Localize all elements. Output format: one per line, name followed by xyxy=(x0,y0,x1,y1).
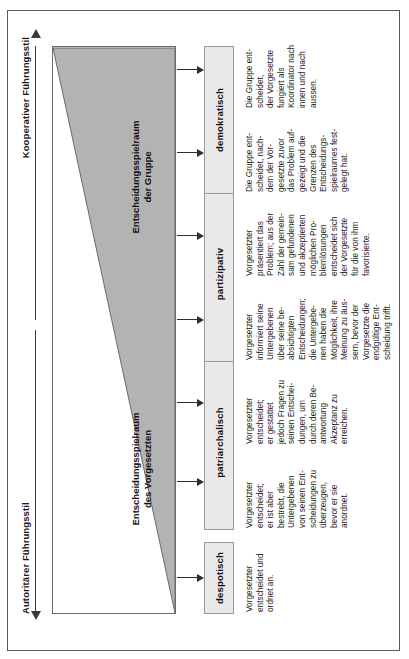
connector-line-7 xyxy=(177,69,199,70)
style-box-partizipativ[interactable]: partizipativ xyxy=(204,186,234,362)
description-demokratisch: Die Gruppe ent- scheidet, nach- dem der … xyxy=(244,114,350,192)
connector-arrow-3-icon xyxy=(197,399,204,407)
right-arrow-icon xyxy=(31,29,41,38)
cooperative-axis-line xyxy=(35,46,36,320)
connector-arrow-2-icon xyxy=(197,478,204,486)
style-label-partizipativ: partizipativ xyxy=(214,248,225,301)
diagram-frame: Autoritärer Führungsstil Kooperativer Fü… xyxy=(7,10,400,651)
connector-arrow-5-icon xyxy=(197,232,204,240)
description-partizipativ-secondary: Vorgesetzter präsentiert das Problem; au… xyxy=(244,196,371,276)
style-box-demokratisch[interactable]: demokratisch xyxy=(204,46,234,194)
connector-line-1 xyxy=(177,577,199,578)
connector-line-2 xyxy=(177,481,199,482)
description-despotisch: Vorgesetzter entscheidet und ordnet an. xyxy=(244,538,276,612)
description-demokratisch-secondary: Die Gruppe ent- scheidet, der Vorgesetzt… xyxy=(244,30,318,108)
connector-line-5 xyxy=(177,235,199,236)
connector-line-3 xyxy=(177,402,199,403)
wedge-label-superior: Entscheidungsspielraum des Vorgesetzten xyxy=(130,384,154,554)
connector-arrow-4-icon xyxy=(197,316,204,324)
style-label-patriarchalisch: patriarchalisch xyxy=(214,407,225,478)
left-arrow-icon xyxy=(31,611,41,620)
connector-line-4 xyxy=(177,319,199,320)
connector-arrow-6-icon xyxy=(197,149,204,157)
style-box-patriarchalisch[interactable]: patriarchalisch xyxy=(204,355,234,530)
diagram-page: Autoritärer Führungsstil Kooperativer Fü… xyxy=(0,0,409,659)
wedge-label-group: Entscheidungsspielraum der Gruppe xyxy=(130,92,154,262)
connector-arrow-1-icon xyxy=(197,574,204,582)
description-partizipativ: Vorgesetzter informiert seine Untergeben… xyxy=(244,282,392,360)
style-box-despotisch[interactable]: despotisch xyxy=(204,542,234,614)
cooperative-style-label: Kooperativer Führungsstil xyxy=(20,37,31,158)
diagram-stage: Autoritärer Führungsstil Kooperativer Fü… xyxy=(0,0,409,659)
style-label-demokratisch: demokratisch xyxy=(214,88,225,152)
wedge-shape-icon xyxy=(52,46,176,614)
decision-latitude-wedge: Entscheidungsspielraum des Vorgesetzten … xyxy=(52,46,176,614)
connector-arrow-7-icon xyxy=(197,66,204,74)
style-label-despotisch: despotisch xyxy=(214,552,225,604)
connector-line-6 xyxy=(177,152,199,153)
authoritarian-style-label: Autoritärer Führungsstil xyxy=(20,502,31,614)
authoritarian-axis-line xyxy=(35,330,36,614)
description-patriarchalisch-secondary: Vorgesetzter entscheidet; er gestattet j… xyxy=(244,366,350,444)
description-patriarchalisch: Vorgesetzter entscheidet; er ist aber be… xyxy=(244,452,350,528)
